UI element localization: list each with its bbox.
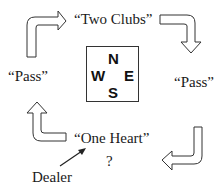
- compass-north: N: [108, 51, 119, 66]
- compass-south: S: [108, 85, 118, 100]
- compass-west: W: [91, 68, 105, 83]
- dealer-pointer-line: [60, 151, 82, 166]
- bid-east: “Pass”: [174, 75, 214, 90]
- arrow-north-to-east-icon: [160, 15, 201, 53]
- dealer-pointer-head-icon: [78, 148, 86, 155]
- bid-south: “One Heart”: [74, 131, 149, 146]
- compass-east: E: [124, 68, 134, 83]
- arrow-west-to-north-icon: [27, 11, 66, 57]
- arrow-east-to-south-icon: [162, 127, 202, 170]
- bid-west: “Pass”: [8, 69, 48, 84]
- arrow-south-to-west-icon: [27, 102, 66, 141]
- bidding-diagram: “Two Clubs” “Pass” “Pass” “One Heart” ? …: [0, 0, 214, 187]
- dealer-label: Dealer: [32, 170, 72, 185]
- bid-north: “Two Clubs”: [74, 12, 153, 27]
- next-bid-question: ?: [106, 154, 113, 169]
